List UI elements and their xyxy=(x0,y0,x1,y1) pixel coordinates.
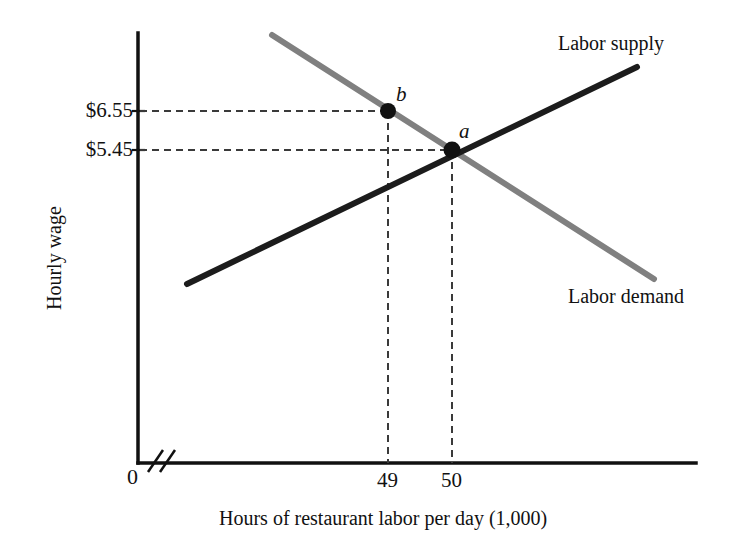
labor-demand-label: Labor demand xyxy=(568,286,684,306)
labor-market-chart: $6.55 $5.45 49 50 0 Labor supply Labor d… xyxy=(0,0,746,546)
x-axis-title: Hours of restaurant labor per day (1,000… xyxy=(219,508,547,528)
x-axis-tick-50: 50 xyxy=(441,470,462,491)
labor-supply-curve xyxy=(187,67,637,284)
point-a-label: a xyxy=(459,121,470,142)
y-axis-title: Hourly wage xyxy=(44,206,64,310)
labor-supply-label: Labor supply xyxy=(558,33,664,53)
y-axis-value-high: $6.55 xyxy=(55,100,133,121)
labor-demand-curve xyxy=(272,35,654,279)
point-a-marker xyxy=(444,142,461,159)
x-axis-tick-49: 49 xyxy=(377,470,398,491)
chart-canvas xyxy=(0,0,746,546)
point-b-label: b xyxy=(396,84,407,105)
y-axis-value-low: $5.45 xyxy=(55,139,133,160)
point-b-marker xyxy=(380,103,396,119)
origin-label: 0 xyxy=(127,466,138,488)
